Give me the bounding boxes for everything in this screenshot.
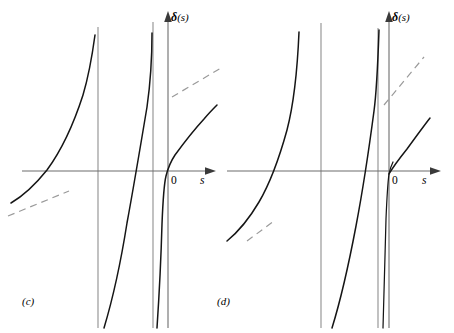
panel-c-tag: (c)	[22, 295, 34, 307]
x-axis-arrow-icon	[430, 167, 441, 175]
panel-d-y-axis-label-arg: (s)	[398, 11, 410, 23]
x-axis-arrow-icon	[205, 167, 216, 175]
panel-c-origin-label: 0	[171, 174, 177, 186]
panel-c	[8, 11, 221, 328]
panel-d-origin-label: 0	[392, 174, 398, 186]
dashed-asymptote-upper-right	[384, 57, 424, 105]
panel-d-x-axis-label: s	[422, 174, 426, 186]
panel-d-y-axis-label: δ(s)	[392, 7, 410, 25]
panel-c-x-axis-label: s	[200, 174, 204, 186]
curve-branch	[104, 33, 152, 328]
dashed-asymptote-lower-left	[247, 221, 274, 241]
curve-branch	[227, 32, 299, 241]
dashed-asymptote-lower-left	[8, 191, 69, 216]
figure-container: δ(s) 0 s (c) δ(s) 0 s (d)	[0, 0, 454, 333]
curve-branch	[332, 30, 379, 328]
panel-c-y-axis-label-arg: (s)	[177, 11, 189, 23]
panel-d-tag: (d)	[217, 295, 230, 307]
curve-branch	[157, 105, 217, 328]
panel-d	[227, 11, 441, 328]
figure-svg	[0, 0, 454, 333]
panel-c-y-axis-label: δ(s)	[171, 7, 189, 25]
curve-branch	[11, 35, 95, 203]
curve-branch	[389, 118, 430, 174]
dashed-asymptote-upper-right	[172, 68, 221, 97]
curve-branch	[383, 162, 393, 328]
